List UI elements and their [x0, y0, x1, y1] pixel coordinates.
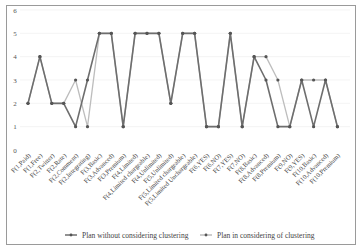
data-point	[26, 102, 29, 105]
y-tick-label: 6	[13, 7, 17, 15]
y-tick-label: 2	[13, 100, 17, 108]
data-point	[288, 125, 291, 128]
data-point	[312, 78, 315, 81]
data-point	[276, 78, 279, 81]
data-point	[181, 32, 184, 35]
data-point	[241, 125, 244, 128]
data-point	[145, 32, 148, 35]
y-tick-label: 0	[13, 147, 17, 155]
data-point	[86, 78, 89, 81]
data-point	[312, 125, 315, 128]
data-point	[62, 102, 65, 105]
legend-marker-icon	[70, 234, 73, 237]
line-chart: 0123456F(1,Paid)F(1,Free)F(2,Twitter)F(2…	[0, 0, 361, 250]
data-point	[205, 125, 208, 128]
data-point	[264, 55, 267, 58]
data-point	[38, 55, 41, 58]
data-point	[193, 32, 196, 35]
data-point	[86, 125, 89, 128]
data-point	[98, 32, 101, 35]
data-point	[74, 78, 77, 81]
data-point	[217, 125, 220, 128]
legend-item: Plan without considering clustering	[65, 231, 189, 240]
legend-item: Plan in considering of clustering	[200, 231, 315, 240]
data-point	[276, 125, 279, 128]
y-tick-label: 1	[13, 123, 17, 131]
data-point	[157, 32, 160, 35]
legend-label: Plan without considering clustering	[82, 231, 189, 240]
data-point	[74, 125, 77, 128]
data-point	[50, 102, 53, 105]
data-point	[300, 78, 303, 81]
y-tick-label: 4	[13, 53, 17, 61]
data-point	[122, 125, 125, 128]
data-point	[169, 102, 172, 105]
data-point	[134, 32, 137, 35]
y-tick-label: 5	[13, 30, 17, 38]
legend-label: Plan in considering of clustering	[217, 231, 315, 240]
data-point	[253, 55, 256, 58]
data-point	[110, 32, 113, 35]
legend-marker-icon	[205, 234, 208, 237]
data-point	[336, 125, 339, 128]
data-point	[264, 78, 267, 81]
data-point	[324, 78, 327, 81]
data-point	[229, 32, 232, 35]
y-tick-label: 3	[13, 77, 17, 85]
